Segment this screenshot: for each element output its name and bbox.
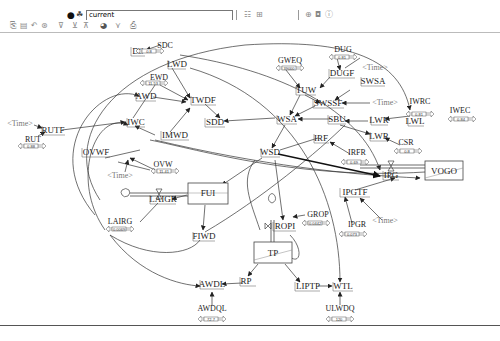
svg-text:11.41: 11.41 (159, 169, 169, 174)
stock-FUI[interactable]: FUI (188, 183, 228, 204)
var-LWR-bottom[interactable]: LWR (369, 131, 388, 141)
stock-TP[interactable]: TP (254, 242, 292, 263)
svg-text:11.53: 11.53 (148, 81, 158, 86)
var-IPG[interactable]: IPG (383, 170, 399, 180)
var-GWEQ[interactable]: GWEQ (278, 56, 302, 65)
var-LWL[interactable]: LWL (406, 116, 425, 126)
svg-text:IPGR: IPGR (348, 220, 367, 229)
svg-text:LWD: LWD (167, 59, 187, 69)
var-SWSSF[interactable]: SWSSF (313, 98, 344, 108)
slider-LAIRG[interactable]: 0.0069 (106, 226, 134, 232)
svg-text:ROPI: ROPI (275, 221, 296, 231)
svg-text:DUG: DUG (334, 45, 352, 54)
var-WSA[interactable]: WSA (277, 114, 298, 124)
svg-text:IPG: IPG (384, 170, 399, 180)
slider-GROP[interactable]: 0.0442 (302, 220, 330, 226)
svg-text:IRFR: IRFR (348, 148, 366, 157)
slider-IPGR[interactable]: 0.073 (339, 231, 367, 237)
var-ULWDQ[interactable]: ULWDQ (325, 304, 354, 313)
var-DUG[interactable]: DUG (334, 45, 352, 54)
var-ROPI[interactable]: ROPI (273, 221, 296, 231)
time-shadow[interactable]: <Time> (107, 171, 133, 180)
var-RUTF[interactable]: RUTF (41, 125, 65, 135)
svg-text:GROP: GROP (307, 210, 329, 219)
time-shadow[interactable]: <Time> (7, 119, 33, 128)
var-IPGR[interactable]: IPGR (348, 220, 367, 229)
var-AWD[interactable]: AWD (136, 91, 157, 101)
var-AWDL[interactable]: AWDL (199, 279, 225, 289)
svg-text:IRF: IRF (314, 133, 328, 143)
time-shadow[interactable]: <Time> (362, 63, 388, 72)
svg-text:0.81: 0.81 (338, 55, 347, 60)
var-WTL[interactable]: WTL (333, 281, 353, 291)
slider-CSR[interactable]: 0.8 (394, 148, 422, 154)
svg-text:LAIRG: LAIRG (108, 217, 133, 226)
slider-IRFR[interactable]: 0.69 (341, 159, 369, 165)
diagram-canvas[interactable]: FUI VOGO TP DS SDC LWD EWD AWD TWDF IWC … (0, 0, 500, 341)
svg-text:IWC: IWC (127, 117, 145, 127)
svg-text:IMWD: IMWD (162, 130, 188, 140)
svg-text:RP: RP (240, 276, 251, 286)
svg-text:FUI: FUI (201, 188, 216, 198)
svg-text:LWL: LWL (406, 116, 425, 126)
time-shadow[interactable]: <Time> (372, 98, 398, 107)
var-AWDQL[interactable]: AWDQL (197, 304, 226, 313)
slider-DUG[interactable]: 0.81 (329, 54, 357, 60)
svg-text:0.84: 0.84 (457, 117, 466, 122)
svg-text:AWD: AWD (136, 91, 157, 101)
svg-text:IWRC: IWRC (410, 97, 431, 106)
var-IPGTF[interactable]: IPGTF (340, 187, 370, 197)
svg-text:IWEC: IWEC (450, 106, 470, 115)
svg-text:0.0442: 0.0442 (309, 221, 322, 226)
var-IWEC[interactable]: IWEC (450, 106, 470, 115)
var-IRFR[interactable]: IRFR (348, 148, 366, 157)
var-RP[interactable]: RP (240, 276, 256, 286)
var-LAIGR[interactable]: LAIGR (149, 194, 177, 204)
var-IMWD[interactable]: IMWD (161, 130, 189, 140)
svg-text:SWSA: SWSA (360, 76, 386, 86)
svg-text:WTL: WTL (333, 281, 353, 291)
var-IWC[interactable]: IWC (127, 117, 145, 127)
var-GROP[interactable]: GROP (307, 210, 329, 219)
var-TUW[interactable]: TUW (296, 85, 317, 95)
var-OVWF[interactable]: OVWF (82, 147, 110, 157)
var-LWD[interactable]: LWD (167, 59, 187, 69)
svg-text:TWDF: TWDF (190, 95, 216, 105)
slider-RUT[interactable]: 0.88 (18, 143, 46, 149)
var-LIPTP[interactable]: LIPTP (295, 281, 320, 291)
var-FIWD[interactable]: FIWD (193, 231, 216, 241)
svg-text:SWSSF: SWSSF (314, 98, 343, 108)
var-SWSA[interactable]: SWSA (360, 76, 386, 86)
svg-text:0.81: 0.81 (415, 112, 424, 117)
svg-text:TP: TP (268, 248, 279, 258)
slider-IWEC[interactable]: 0.84 (448, 116, 476, 122)
svg-text:0.69: 0.69 (350, 160, 359, 165)
svg-text:0.073: 0.073 (347, 232, 358, 237)
svg-text:0.8: 0.8 (404, 149, 410, 154)
var-LWR-top[interactable]: LWR (369, 115, 388, 125)
slider-GWEQ[interactable]: 39000 (276, 65, 304, 71)
var-TWDF[interactable]: TWDF (190, 95, 216, 105)
var-SDD[interactable]: SDD (205, 117, 225, 127)
slider-AWDQL[interactable]: 72.7 (198, 316, 226, 322)
var-LAIRG[interactable]: LAIRG (108, 217, 133, 226)
svg-text:IPGTF: IPGTF (342, 187, 367, 197)
svg-text:WSD: WSD (260, 147, 281, 157)
time-shadow[interactable]: <Time> (372, 216, 398, 225)
var-IWRC[interactable]: IWRC (410, 97, 431, 106)
svg-text:AWDQL: AWDQL (197, 304, 226, 313)
var-CSR[interactable]: CSR (398, 138, 414, 147)
var-WSD[interactable]: WSD (260, 147, 281, 157)
svg-text:FIWD: FIWD (193, 231, 216, 241)
var-IRF[interactable]: IRF (314, 133, 329, 143)
stock-VOGO[interactable]: VOGO (425, 161, 463, 180)
svg-text:LWR: LWR (369, 131, 388, 141)
slider-ULWDQ[interactable]: 120 (326, 316, 354, 322)
var-DUGF[interactable]: DUGF (329, 68, 355, 78)
var-SDC[interactable]: SDC (157, 41, 173, 50)
var-SBU[interactable]: SBU (328, 114, 346, 124)
divider (0, 325, 500, 326)
svg-text:RUTF: RUTF (41, 125, 64, 135)
cloud-icon (121, 189, 130, 197)
svg-text:VOGO: VOGO (431, 166, 457, 176)
